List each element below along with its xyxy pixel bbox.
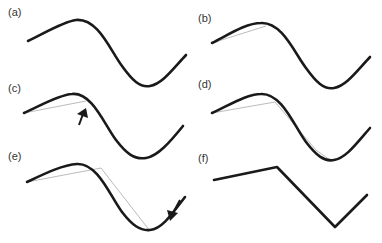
arrow-icon xyxy=(77,108,88,125)
panel-c: (c) xyxy=(8,82,183,158)
polyline-approximation xyxy=(214,167,367,227)
smooth-curve xyxy=(24,94,183,158)
panel-e: (e) xyxy=(8,150,185,231)
panel-label-e: (e) xyxy=(8,150,21,162)
curve-simplification-diagram: (a) (b) (c) (d) (e) (f) xyxy=(0,0,382,243)
chord xyxy=(24,101,86,113)
panel-b: (b) xyxy=(198,12,370,88)
panel-label-b: (b) xyxy=(198,12,211,24)
panel-f: (f) xyxy=(198,152,367,227)
smooth-curve xyxy=(212,94,370,160)
panel-d: (d) xyxy=(198,78,370,160)
panel-label-a: (a) xyxy=(8,6,21,18)
smooth-curve xyxy=(212,23,370,88)
panel-label-f: (f) xyxy=(198,152,208,164)
panel-label-c: (c) xyxy=(8,82,21,94)
panel-a: (a) xyxy=(8,6,186,86)
smooth-curve xyxy=(28,20,186,86)
panel-label-d: (d) xyxy=(198,78,211,90)
